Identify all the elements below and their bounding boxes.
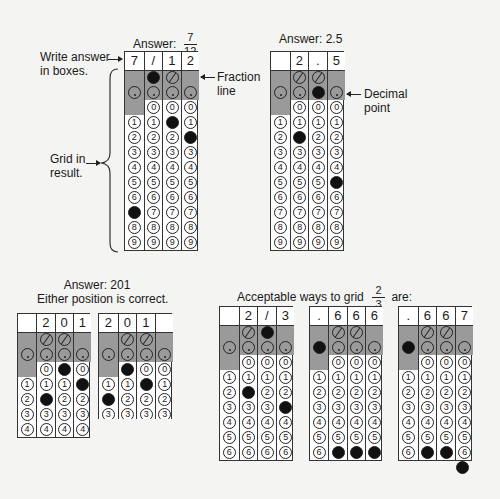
digit-bubble-3[interactable]: 3 (147, 146, 160, 159)
digit-bubble-3[interactable] (279, 401, 292, 414)
digit-bubble-1[interactable] (140, 378, 153, 391)
digit-bubble-1[interactable]: 1 (121, 378, 134, 391)
digit-bubble-6[interactable] (421, 446, 434, 459)
decimal-bubble[interactable] (102, 348, 115, 361)
digit-bubble-1[interactable]: 1 (261, 371, 274, 384)
decimal-bubble[interactable] (128, 86, 141, 99)
answer-box[interactable]: . (310, 307, 328, 326)
answer-box[interactable] (271, 52, 290, 71)
digit-bubble-5[interactable]: 5 (332, 431, 345, 444)
decimal-bubble[interactable] (166, 86, 179, 99)
digit-bubble-0[interactable]: 0 (76, 363, 89, 376)
digit-bubble-1[interactable]: 1 (40, 378, 53, 391)
decimal-bubble[interactable] (274, 86, 287, 99)
digit-bubble-5[interactable]: 5 (166, 176, 179, 189)
digit-bubble-5[interactable]: 5 (458, 431, 471, 444)
answer-box[interactable]: 5 (328, 52, 346, 71)
digit-bubble-4[interactable]: 4 (128, 161, 141, 174)
answer-box[interactable]: 2 (182, 52, 200, 71)
digit-bubble-6[interactable]: 6 (147, 191, 160, 204)
decimal-bubble[interactable] (313, 341, 326, 354)
answer-box[interactable]: 2 (99, 314, 118, 333)
digit-bubble-3[interactable]: 3 (313, 401, 326, 414)
answer-box[interactable]: 6 (348, 307, 365, 326)
digit-bubble-6[interactable]: 6 (279, 446, 292, 459)
digit-bubble-4[interactable]: 4 (223, 416, 236, 429)
digit-bubble-1[interactable]: 1 (158, 378, 171, 391)
digit-bubble-4[interactable]: 4 (402, 416, 415, 429)
decimal-bubble[interactable] (312, 86, 325, 99)
digit-bubble-3[interactable]: 3 (76, 408, 89, 421)
answer-box[interactable]: 0 (56, 314, 73, 333)
decimal-bubble[interactable] (40, 348, 53, 361)
fraction-bubble[interactable] (332, 326, 345, 339)
digit-bubble-9[interactable]: 9 (184, 236, 197, 249)
digit-bubble-8[interactable]: 8 (312, 221, 325, 234)
digit-bubble-3[interactable]: 3 (242, 401, 255, 414)
digit-bubble-1[interactable]: 1 (402, 371, 415, 384)
answer-box[interactable]: 2 (240, 307, 258, 326)
digit-bubble-2[interactable]: 2 (140, 393, 153, 406)
digit-bubble-4[interactable]: 4 (350, 416, 363, 429)
digit-bubble-9[interactable]: 9 (293, 236, 306, 249)
digit-bubble-1[interactable]: 1 (458, 371, 471, 384)
fraction-bubble[interactable] (166, 71, 179, 84)
digit-bubble-3[interactable]: 3 (58, 408, 71, 421)
digit-bubble-6[interactable]: 6 (242, 446, 255, 459)
digit-bubble-0[interactable]: 0 (184, 101, 197, 114)
digit-bubble-3[interactable]: 3 (274, 146, 287, 159)
digit-bubble-7[interactable] (128, 206, 141, 219)
answer-box[interactable]: / (145, 52, 163, 71)
digit-bubble-8[interactable]: 8 (274, 221, 287, 234)
digit-bubble-2[interactable]: 2 (58, 393, 71, 406)
digit-bubble-8[interactable]: 8 (147, 221, 160, 234)
digit-bubble-3[interactable]: 3 (166, 146, 179, 159)
digit-bubble-2[interactable] (40, 393, 53, 406)
digit-bubble-1[interactable]: 1 (350, 371, 363, 384)
digit-bubble-3[interactable]: 3 (184, 146, 197, 159)
fraction-bubble[interactable] (440, 326, 453, 339)
digit-bubble-5[interactable]: 5 (402, 431, 415, 444)
digit-bubble-5[interactable]: 5 (312, 176, 325, 189)
digit-bubble-4[interactable]: 4 (312, 161, 325, 174)
digit-bubble-8[interactable]: 8 (166, 221, 179, 234)
digit-bubble-6[interactable]: 6 (458, 446, 471, 459)
digit-bubble-1[interactable]: 1 (274, 116, 287, 129)
digit-bubble-4[interactable]: 4 (76, 423, 89, 436)
answer-box[interactable]: 2 (37, 314, 54, 333)
digit-bubble-1[interactable]: 1 (440, 371, 453, 384)
digit-bubble-4[interactable]: 4 (242, 416, 255, 429)
digit-bubble-7[interactable]: 7 (166, 206, 179, 219)
digit-bubble-0[interactable]: 0 (312, 101, 325, 114)
digit-bubble-0[interactable] (121, 363, 134, 376)
digit-bubble-6[interactable]: 6 (313, 446, 326, 459)
digit-bubble-3[interactable]: 3 (312, 146, 325, 159)
digit-bubble-9[interactable]: 9 (312, 236, 325, 249)
answer-box[interactable]: . (399, 307, 418, 326)
digit-bubble-4[interactable]: 4 (40, 423, 53, 436)
digit-bubble-1[interactable]: 1 (223, 371, 236, 384)
digit-bubble-1[interactable]: 1 (312, 116, 325, 129)
digit-bubble-1[interactable]: 1 (58, 378, 71, 391)
digit-bubble-9[interactable]: 9 (166, 236, 179, 249)
digit-bubble-6[interactable]: 6 (166, 191, 179, 204)
fraction-bubble[interactable] (140, 333, 153, 346)
answer-box[interactable] (220, 307, 239, 326)
decimal-bubble[interactable] (440, 341, 453, 354)
digit-bubble-3[interactable]: 3 (223, 401, 236, 414)
digit-bubble-2[interactable]: 2 (121, 393, 134, 406)
digit-bubble-2[interactable]: 2 (147, 131, 160, 144)
digit-bubble-1[interactable]: 1 (293, 116, 306, 129)
digit-bubble-0[interactable] (58, 363, 71, 376)
answer-box[interactable]: 1 (137, 314, 155, 333)
digit-bubble-1[interactable]: 1 (184, 116, 197, 129)
digit-bubble-4[interactable]: 4 (421, 416, 434, 429)
digit-bubble-1[interactable] (76, 378, 89, 391)
digit-bubble-0[interactable]: 0 (368, 356, 381, 369)
digit-bubble-2[interactable] (293, 131, 306, 144)
digit-bubble-1[interactable]: 1 (242, 371, 255, 384)
answer-box[interactable] (156, 314, 174, 333)
digit-bubble-5[interactable]: 5 (184, 176, 197, 189)
fraction-bubble[interactable] (312, 71, 325, 84)
digit-bubble-5[interactable]: 5 (147, 176, 160, 189)
